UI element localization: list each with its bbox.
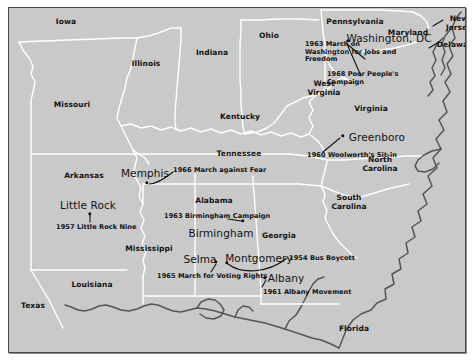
- leader-delaware: [429, 42, 439, 48]
- leader-woolworths-sitin: [323, 138, 340, 152]
- state-borders: [19, 10, 429, 328]
- leader-march-against-fear: [149, 172, 173, 184]
- coastline-outline: [65, 12, 461, 348]
- leader-march-voting-rights: [211, 264, 216, 272]
- map-geography: [9, 8, 465, 352]
- leader-poor-peoples-campaign: [347, 44, 361, 76]
- leader-new-jersey: [433, 20, 443, 26]
- leader-bus-boycott: [228, 258, 287, 271]
- leader-birmingham-campaign: [228, 219, 241, 221]
- map-frame: IowaIllinoisIndianaOhioPennsylvaniaMaryl…: [8, 7, 466, 353]
- leader-albany-movement: [262, 280, 266, 287]
